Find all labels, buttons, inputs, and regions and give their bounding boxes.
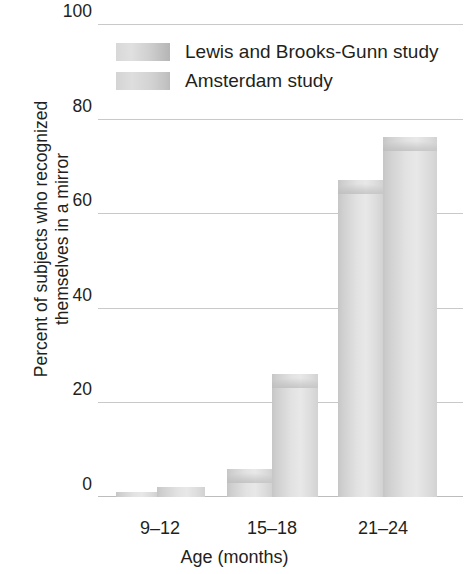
chart-legend: Lewis and Brooks-Gunn study Amsterdam st… — [116, 41, 438, 92]
gridline-100 — [98, 24, 463, 25]
bar-body — [338, 180, 383, 497]
bar-cap — [272, 374, 318, 388]
bar-cap — [227, 469, 272, 483]
legend-label-lewis: Lewis and Brooks-Gunn study — [185, 41, 438, 63]
x-tick-label-2: 21–24 — [323, 518, 443, 539]
plot-area — [98, 24, 463, 497]
legend-swatch-icon-amsterdam — [116, 72, 170, 90]
y-tick-label-80: 80 — [30, 98, 92, 116]
bar-cap — [338, 180, 383, 194]
y-tick-label-0: 0 — [30, 476, 92, 494]
bar-cap — [383, 137, 437, 151]
y-tick-label-40: 40 — [30, 287, 92, 305]
legend-item-lewis: Lewis and Brooks-Gunn study — [116, 41, 438, 63]
bar-body — [116, 492, 157, 497]
bar-amsterdam-9-12 — [157, 487, 205, 497]
bar-chart-figure: Percent of subjects who recognized thems… — [0, 0, 469, 574]
bar-amsterdam-15-18 — [272, 374, 318, 497]
bar-body — [157, 487, 205, 497]
bar-lewis-15-18 — [227, 469, 272, 497]
y-tick-label-20: 20 — [30, 381, 92, 399]
bar-amsterdam-21-24 — [383, 137, 437, 497]
legend-swatch-icon-lewis — [116, 43, 170, 61]
y-axis-title-line-1: Percent of subjects who recognized — [31, 101, 52, 377]
bar-body — [272, 374, 318, 497]
bar-body — [383, 137, 437, 497]
legend-item-amsterdam: Amsterdam study — [116, 70, 438, 92]
legend-label-amsterdam: Amsterdam study — [185, 70, 333, 92]
bar-lewis-9-12 — [116, 492, 157, 497]
x-axis-title: Age (months) — [0, 547, 469, 568]
x-tick-label-1: 15–18 — [212, 518, 332, 539]
y-tick-label-100: 100 — [30, 3, 92, 21]
y-tick-label-60: 60 — [30, 192, 92, 210]
gridline-80 — [98, 119, 463, 120]
bar-lewis-21-24 — [338, 180, 383, 497]
x-tick-label-0: 9–12 — [100, 518, 220, 539]
